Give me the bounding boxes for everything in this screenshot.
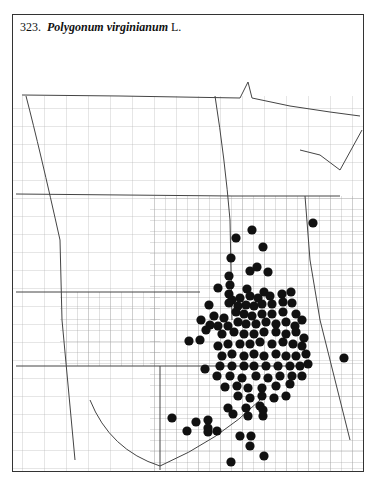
occurrence-dot: [339, 353, 348, 362]
occurrence-dot: [237, 373, 246, 382]
occurrence-dot: [291, 327, 300, 336]
occurrence-dot: [251, 371, 260, 380]
occurrence-dot: [261, 317, 270, 326]
occurrence-dot: [184, 336, 193, 345]
occurrence-dot: [233, 317, 242, 326]
occurrence-dot: [196, 315, 205, 324]
occurrence-dot: [239, 361, 248, 370]
map-number: 323.: [20, 20, 41, 34]
occurrence-dot: [267, 299, 276, 308]
species-author: L.: [171, 20, 181, 34]
occurrence-dot: [249, 329, 258, 338]
map-title: 323. Polygonum virginianum L.: [20, 20, 181, 35]
occurrence-dot: [212, 426, 221, 435]
occurrence-dot: [228, 409, 237, 418]
occurrence-dot: [246, 431, 255, 440]
occurrence-dot: [235, 293, 244, 302]
occurrence-dot: [259, 351, 268, 360]
occurrence-dot: [233, 391, 242, 400]
occurrence-dot: [297, 341, 306, 350]
occurrence-dot: [226, 253, 235, 262]
occurrence-dot: [275, 371, 284, 380]
occurrence-dot: [257, 383, 266, 392]
occurrence-dot: [225, 371, 234, 380]
occurrence-dot: [271, 349, 280, 358]
occurrence-dot: [203, 427, 212, 436]
occurrence-dot: [259, 327, 268, 336]
occurrence-dot: [257, 299, 266, 308]
base-map: [13, 82, 363, 471]
occurrence-dot: [297, 371, 306, 380]
occurrence-dot: [241, 319, 250, 328]
occurrence-dot: [226, 457, 235, 466]
occurrence-dot: [287, 298, 296, 307]
occurrence-dot: [217, 351, 226, 360]
occurrence-dot: [257, 391, 266, 400]
occurrence-dot: [220, 382, 229, 391]
occurrence-dot: [271, 319, 280, 328]
occurrence-dot: [278, 337, 287, 346]
occurrence-dot: [249, 361, 258, 370]
occurrence-dot: [201, 325, 210, 334]
occurrence-dot: [259, 451, 268, 460]
occurrence-dot: [255, 337, 264, 346]
occurrence-dot: [269, 393, 278, 402]
occurrence-dot: [213, 321, 222, 330]
occurrence-dot: [227, 361, 236, 370]
occurrence-dot: [295, 361, 304, 370]
occurrence-dot: [278, 297, 287, 306]
occurrence-dot: [249, 301, 258, 310]
occurrence-dot: [291, 351, 300, 360]
occurrence-dot: [224, 298, 233, 307]
occurrence-dot: [232, 381, 241, 390]
occurrence-dot: [243, 411, 252, 420]
occurrence-dot: [297, 315, 306, 324]
occurrence-dot: [191, 417, 200, 426]
occurrence-dot: [301, 349, 310, 358]
occurrence-dot: [287, 371, 296, 380]
occurrence-dot: [215, 361, 224, 370]
occurrence-dot: [212, 371, 221, 380]
occurrence-dot: [281, 351, 290, 360]
occurrence-dot: [281, 329, 290, 338]
occurrence-dot: [223, 339, 232, 348]
distribution-map: [0, 0, 377, 484]
occurrence-dot: [278, 307, 287, 316]
occurrence-dot: [265, 291, 274, 300]
occurrence-dot: [308, 218, 317, 227]
occurrence-dot: [235, 431, 244, 440]
occurrence-dot: [247, 225, 256, 234]
occurrence-dot: [267, 309, 276, 318]
occurrence-dot: [231, 233, 240, 242]
occurrence-dot: [213, 341, 222, 350]
occurrence-dot: [303, 359, 312, 368]
occurrence-dot: [277, 289, 286, 298]
occurrence-dot: [271, 381, 280, 390]
occurrence-dot: [281, 317, 290, 326]
occurrence-dot: [245, 339, 254, 348]
occurrence-dot: [217, 329, 226, 338]
occurrence-dot: [213, 283, 222, 292]
occurrence-dot: [231, 307, 240, 316]
occurrence-dot: [239, 329, 248, 338]
occurrence-dot: [271, 327, 280, 336]
occurrence-dot: [204, 300, 213, 309]
occurrence-dot: [209, 311, 218, 320]
occurrence-dot: [203, 415, 212, 424]
occurrence-dot: [245, 291, 254, 300]
occurrence-dot: [281, 391, 290, 400]
species-name: Polygonum virginianum: [47, 20, 168, 34]
occurrence-dot: [299, 333, 308, 342]
occurrence-dot: [182, 426, 191, 435]
occurrence-dot: [229, 327, 238, 336]
occurrence-dot: [285, 361, 294, 370]
occurrence-dot: [286, 287, 295, 296]
occurrence-dot: [245, 441, 254, 450]
occurrence-dot: [267, 339, 276, 348]
occurrence-dot: [285, 379, 294, 388]
occurrence-dot: [245, 266, 254, 275]
occurrence-dot: [239, 309, 248, 318]
occurrence-dot: [241, 300, 250, 309]
occurrence-dot: [251, 319, 260, 328]
occurrence-dot: [258, 405, 267, 414]
